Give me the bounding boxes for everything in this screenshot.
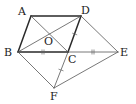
segment-DE <box>81 16 118 52</box>
label-F: F <box>50 90 58 103</box>
label-B: B <box>4 46 12 59</box>
label-D: D <box>81 4 90 17</box>
geometry-diagram: A B C D E F O <box>0 0 136 104</box>
segment-BF <box>18 52 54 88</box>
label-A: A <box>17 5 27 18</box>
segment-FE <box>54 52 118 88</box>
segment-AB <box>18 16 31 52</box>
label-E: E <box>120 46 128 59</box>
label-O: O <box>44 35 53 48</box>
label-C: C <box>68 53 76 66</box>
